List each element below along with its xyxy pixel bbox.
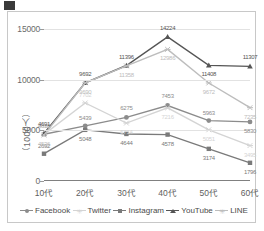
data-point-marker bbox=[207, 147, 211, 151]
legend-label: YouTube bbox=[181, 206, 212, 215]
series-line bbox=[44, 103, 250, 146]
data-point-marker bbox=[165, 132, 169, 136]
data-point-marker bbox=[206, 118, 211, 123]
series-line bbox=[44, 49, 250, 135]
x-marker-icon: ✳ bbox=[215, 206, 228, 215]
data-point-marker bbox=[206, 81, 212, 86]
gridline bbox=[44, 29, 250, 30]
gridline bbox=[44, 130, 250, 131]
data-point-marker bbox=[247, 143, 253, 148]
data-point-marker bbox=[247, 105, 253, 110]
x-axis-tick-label: 20代 bbox=[76, 186, 94, 198]
data-point-marker bbox=[83, 123, 88, 128]
data-point-marker bbox=[124, 132, 128, 136]
x-axis-tick-label: 60代 bbox=[241, 186, 259, 198]
y-axis-tick-mark bbox=[40, 29, 44, 30]
data-point-marker bbox=[82, 101, 88, 106]
legend-label: Instagram bbox=[128, 206, 164, 215]
series-lines bbox=[44, 29, 250, 181]
data-point-marker bbox=[123, 121, 129, 126]
legend-item-twitter[interactable]: ✳Twitter bbox=[73, 206, 112, 215]
square-marker-icon bbox=[113, 206, 126, 215]
y-axis-tick-mark bbox=[40, 130, 44, 131]
legend-label: LINE bbox=[230, 206, 248, 215]
data-point-marker bbox=[165, 47, 171, 52]
legend-label: Twitter bbox=[88, 206, 112, 215]
x-axis-tick-label: 50代 bbox=[200, 186, 218, 198]
y-axis-tick-mark bbox=[40, 80, 44, 81]
corner-marker bbox=[4, 1, 15, 10]
plot-canvas: 05000100001500010代20代30代40代50代60代4618543… bbox=[44, 29, 250, 181]
legend-item-line[interactable]: ✳LINE bbox=[215, 206, 248, 215]
y-axis-tick-label: 5000 bbox=[22, 125, 40, 135]
x-axis-line bbox=[44, 180, 250, 181]
legend-item-instagram[interactable]: Instagram bbox=[113, 206, 164, 215]
chart-legend: Facebook✳TwitterInstagramYouTube✳LINE bbox=[20, 206, 248, 215]
y-axis-tick-label: 15000 bbox=[17, 24, 40, 34]
x-axis-tick-label: 40代 bbox=[158, 186, 176, 198]
data-point-marker bbox=[248, 161, 252, 165]
legend-item-facebook[interactable]: Facebook bbox=[20, 206, 70, 215]
plot-area: 05000100001500010代20代30代40代50代60代4618543… bbox=[44, 29, 250, 181]
y-axis-tick-mark bbox=[40, 181, 44, 182]
data-point-marker bbox=[165, 34, 171, 39]
legend-label: Facebook bbox=[35, 206, 70, 215]
chart-page: （1000人） 05000100001500010代20代30代40代50代60… bbox=[0, 0, 264, 231]
legend-item-youtube[interactable]: YouTube bbox=[166, 206, 212, 215]
data-point-marker bbox=[124, 115, 129, 120]
series-line bbox=[44, 37, 250, 134]
chart-frame: （1000人） 05000100001500010代20代30代40代50代60… bbox=[7, 11, 256, 223]
y-axis-tick-label: 10000 bbox=[17, 75, 40, 85]
series-line bbox=[44, 130, 250, 163]
x-axis-tick-label: 30代 bbox=[117, 186, 135, 198]
data-point-marker bbox=[248, 120, 253, 125]
circle-marker-icon bbox=[20, 206, 33, 215]
x-axis-tick-label: 10代 bbox=[35, 186, 53, 198]
gridline bbox=[44, 80, 250, 81]
data-point-marker bbox=[42, 152, 46, 156]
triangle-marker-icon bbox=[166, 206, 179, 215]
x-marker-icon: ✳ bbox=[73, 206, 86, 215]
